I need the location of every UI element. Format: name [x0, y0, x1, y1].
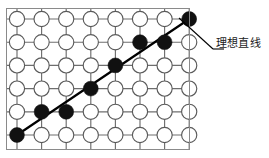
open-lattice-dot [132, 11, 147, 26]
open-lattice-dot [9, 104, 24, 119]
open-lattice-dot [83, 11, 98, 26]
open-lattice-dot [108, 127, 123, 142]
filled-lattice-dot [133, 35, 148, 50]
open-lattice-dot [59, 35, 74, 50]
open-lattice-dot [59, 81, 74, 96]
diagram-canvas [0, 0, 269, 158]
open-lattice-dot [9, 58, 24, 73]
open-lattice-dot [108, 104, 123, 119]
open-lattice-dot [108, 81, 123, 96]
open-lattice-dot [83, 58, 98, 73]
open-lattice-dot [83, 35, 98, 50]
open-lattice-dot [108, 35, 123, 50]
open-lattice-dot [9, 35, 24, 50]
open-lattice-dot [34, 35, 49, 50]
open-lattice-dot [157, 127, 172, 142]
filled-lattice-dot [157, 35, 172, 50]
open-lattice-dot [157, 11, 172, 26]
open-lattice-dot [34, 127, 49, 142]
open-lattice-dot [9, 11, 24, 26]
open-lattice-dot [34, 81, 49, 96]
ideal-line-label: 理想直线 [216, 38, 261, 49]
open-lattice-dot [59, 127, 74, 142]
open-lattice-dot [132, 104, 147, 119]
open-lattice-dot [83, 127, 98, 142]
filled-lattice-dot [10, 128, 25, 143]
open-lattice-dot [108, 11, 123, 26]
open-lattice-dot [132, 127, 147, 142]
open-lattice-dot [59, 58, 74, 73]
open-lattice-dot [157, 58, 172, 73]
open-lattice-dot [34, 11, 49, 26]
open-lattice-dot [59, 11, 74, 26]
open-lattice-dot [157, 81, 172, 96]
open-lattice-dot [132, 58, 147, 73]
filled-lattice-dot [108, 58, 123, 73]
filled-lattice-dot [34, 104, 49, 119]
filled-lattice-dot [59, 104, 74, 119]
open-lattice-dot [83, 104, 98, 119]
open-lattice-dot [157, 104, 172, 119]
filled-lattice-dot [83, 81, 98, 96]
open-lattice-dot [132, 81, 147, 96]
open-lattice-dot [9, 81, 24, 96]
rasterized-line-diagram: 理想直线 [0, 0, 269, 158]
open-lattice-dot [34, 58, 49, 73]
